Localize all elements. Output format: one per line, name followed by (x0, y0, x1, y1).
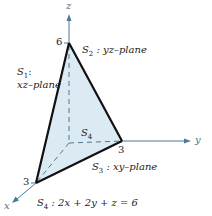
tetrahedron-diagram (0, 0, 212, 216)
z-tick-label: 6 (56, 37, 62, 47)
y-tick-label: 3 (118, 145, 124, 155)
z-axis-arrow-icon (67, 14, 72, 21)
x-axis-arrow-icon (12, 197, 19, 204)
x-tick-label: 3 (23, 177, 29, 187)
label-s4: S4 (81, 128, 92, 141)
x-axis-label: x (4, 201, 10, 211)
label-s3: S3 : xy–plane (92, 162, 157, 175)
label-s1-desc: xz–plane (17, 80, 61, 90)
y-axis-arrow-icon (184, 139, 191, 144)
y-axis-label: y (195, 135, 201, 145)
label-s2: S2 : yz–plane (82, 45, 147, 58)
equation-s4: S4 : 2x + 2y + z = 6 (37, 198, 138, 211)
z-axis-label: z (66, 1, 71, 11)
